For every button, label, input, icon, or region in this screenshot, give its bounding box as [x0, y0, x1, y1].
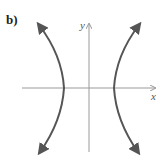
x-axis-label: x — [150, 90, 156, 102]
hyperbola-diagram: x y — [0, 0, 166, 162]
y-axis-label: y — [79, 19, 85, 31]
